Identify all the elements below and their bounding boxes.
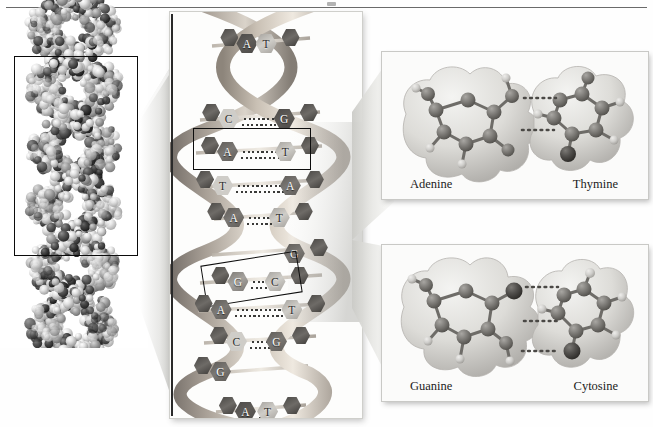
cytosine-label: Cytosine xyxy=(574,379,618,394)
hydrogen-bond xyxy=(235,315,290,317)
thymine-label: Thymine xyxy=(573,177,618,192)
guanine-cytosine-molecules xyxy=(382,245,648,401)
hydrogen-bond xyxy=(236,191,288,193)
space-filling-model-panel xyxy=(0,0,148,348)
guanine-label: Guanine xyxy=(410,379,452,394)
highlighted-base-pair-box xyxy=(193,128,311,170)
double-helix-panel: ATCGATTAATGGCATCGGAT xyxy=(170,12,362,418)
guanine-cytosine-panel: Guanine Cytosine xyxy=(382,245,648,401)
dna-structure-figure: ATCGATTAATGGCATCGGAT xyxy=(0,0,653,427)
space-filling-atoms xyxy=(0,0,148,348)
hydrogen-bond xyxy=(242,124,282,126)
thymine-electron-cloud xyxy=(530,66,633,170)
adenine-thymine-panel: Adenine Thymine xyxy=(382,52,648,199)
guanine-electron-cloud xyxy=(401,258,539,377)
adenine-label: Adenine xyxy=(410,177,452,192)
adenine-electron-cloud xyxy=(403,67,538,182)
middle-panel-left-edge xyxy=(171,14,173,416)
